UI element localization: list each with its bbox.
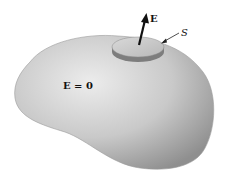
diagram-canvas: E S E = 0 bbox=[0, 0, 227, 178]
label-surface: S bbox=[181, 27, 188, 38]
pillbox-top bbox=[112, 37, 164, 57]
surface-leader-arrowhead bbox=[161, 39, 167, 44]
label-field-vector: E bbox=[150, 13, 158, 24]
label-interior-field: E = 0 bbox=[63, 80, 93, 91]
